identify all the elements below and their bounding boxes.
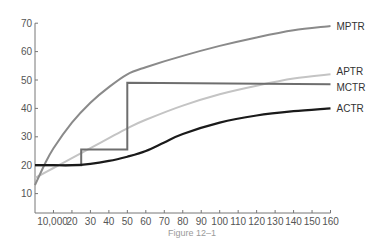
y-tick-label: 50 bbox=[21, 75, 33, 86]
series-label-aptr: APTR bbox=[337, 66, 364, 77]
series-labels: APTRMPTRMCTRACTR bbox=[337, 21, 366, 114]
figure-caption: Figure 12–1 bbox=[168, 228, 216, 238]
x-tick-label: 90 bbox=[196, 216, 208, 227]
x-tick-label: 160 bbox=[322, 216, 339, 227]
line-mctr bbox=[35, 83, 331, 165]
x-tick-label: 130 bbox=[267, 216, 284, 227]
x-tick-label: 40 bbox=[103, 216, 115, 227]
series-lines bbox=[35, 26, 331, 185]
y-tick-label: 20 bbox=[21, 160, 33, 171]
x-tick-label: 60 bbox=[140, 216, 152, 227]
y-tick-label: 70 bbox=[21, 18, 33, 29]
y-tick-label: 40 bbox=[21, 103, 33, 114]
y-tick-label: 10 bbox=[21, 188, 33, 199]
x-tick-label: 150 bbox=[304, 216, 321, 227]
line-actr bbox=[35, 108, 331, 165]
x-tick-label: 30 bbox=[85, 216, 97, 227]
chart: 1020304050607010,00020304050607080901001… bbox=[0, 0, 384, 251]
x-tick-label: 70 bbox=[159, 216, 171, 227]
x-tick-label: 20 bbox=[66, 216, 78, 227]
x-tick-label: 100 bbox=[211, 216, 228, 227]
x-tick-label: 80 bbox=[177, 216, 189, 227]
x-tick-label: 50 bbox=[122, 216, 134, 227]
x-tick-label: 10,000 bbox=[37, 216, 68, 227]
axes: 1020304050607010,00020304050607080901001… bbox=[21, 18, 339, 227]
x-tick-label: 140 bbox=[285, 216, 302, 227]
series-label-mctr: MCTR bbox=[337, 82, 366, 93]
line-aptr bbox=[35, 74, 331, 178]
series-label-actr: ACTR bbox=[337, 103, 364, 114]
y-tick-label: 60 bbox=[21, 46, 33, 57]
series-label-mptr: MPTR bbox=[337, 21, 365, 32]
x-tick-label: 120 bbox=[248, 216, 265, 227]
y-tick-label: 30 bbox=[21, 131, 33, 142]
x-tick-label: 110 bbox=[230, 216, 246, 227]
